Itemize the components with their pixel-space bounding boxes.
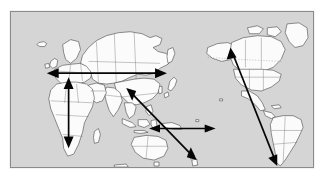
land-indochina xyxy=(124,103,136,119)
land-iceland xyxy=(37,42,47,47)
land-baffin xyxy=(267,27,281,37)
land-kamchatka xyxy=(167,48,175,64)
land-tasmania xyxy=(154,162,159,166)
land-greenland xyxy=(285,23,308,48)
land-africa xyxy=(49,82,95,156)
land-japan-south xyxy=(164,92,169,98)
arrow-east-asia-new-zealand-head-se xyxy=(187,147,197,160)
land-australia xyxy=(131,135,168,160)
land-hawaii xyxy=(220,99,223,101)
figure-root: World map with bidirectional route arrow… xyxy=(0,0,328,184)
arrow-europe-east-asia-head-west xyxy=(47,68,59,78)
world-map-frame xyxy=(10,11,314,168)
landmass-group xyxy=(37,23,308,167)
land-arctic-islands xyxy=(247,26,263,34)
world-map-svg xyxy=(11,12,313,167)
land-new-zealand-south xyxy=(192,159,198,166)
land-british-isles xyxy=(50,58,58,68)
land-java xyxy=(134,130,148,133)
land-antarctic-hint xyxy=(114,164,128,167)
land-caribbean xyxy=(271,105,281,109)
land-madagascar xyxy=(93,128,100,143)
land-scandinavia xyxy=(63,40,81,64)
land-borneo xyxy=(138,120,150,128)
land-ireland xyxy=(45,63,50,68)
land-pacific-islands xyxy=(196,120,199,122)
arrow-europe-east-asia-head-east xyxy=(155,68,167,78)
land-japan xyxy=(168,77,177,91)
arrow-indonesia-pacific-head-east xyxy=(205,125,216,133)
arrow-indonesia-pacific xyxy=(149,125,216,133)
land-sumatra xyxy=(122,119,136,128)
